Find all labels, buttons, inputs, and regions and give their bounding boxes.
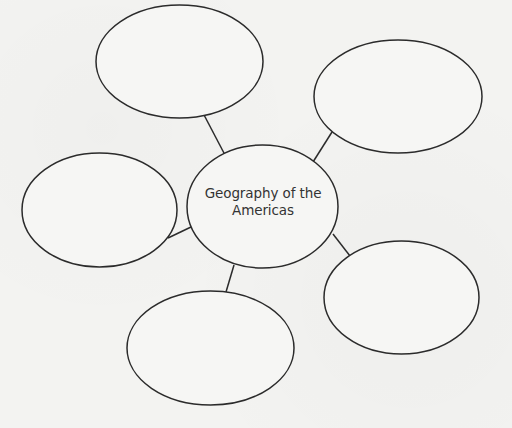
connector-top-left <box>203 113 225 155</box>
bubble-left[interactable] <box>22 153 177 267</box>
bubble-top-right[interactable] <box>314 40 482 153</box>
bubble-bottom[interactable] <box>127 291 294 405</box>
connector-bottom-right <box>333 234 350 256</box>
center-label-line1: Geography of the <box>187 185 339 202</box>
connector-bottom <box>226 265 234 292</box>
center-label-line2: Americas <box>187 202 339 219</box>
worksheet-page: Geography of the Americas <box>0 0 512 428</box>
bubble-bottom-right[interactable] <box>324 241 479 354</box>
center-topic-label: Geography of the Americas <box>187 185 339 219</box>
bubble-top-left[interactable] <box>96 5 263 118</box>
connector-top-right <box>313 132 332 162</box>
